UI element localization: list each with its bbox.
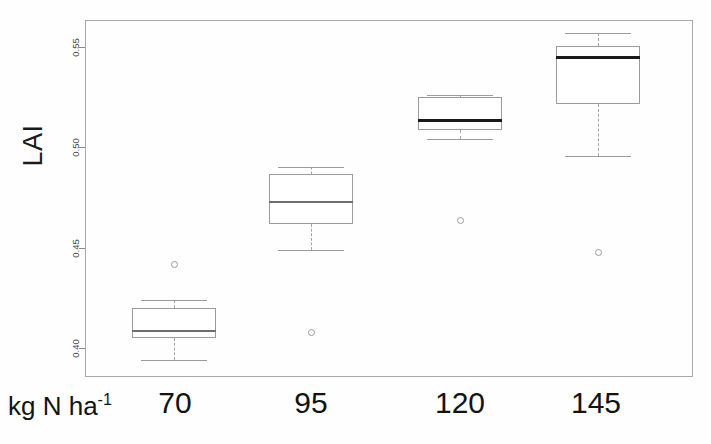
whisker-cap-lower (141, 360, 207, 361)
whisker-cap-lower (565, 156, 631, 157)
whisker-lower (174, 338, 175, 360)
whisker-upper (598, 33, 599, 46)
y-axis-title: LAI (18, 101, 49, 191)
whisker-upper (174, 300, 175, 308)
median-line (132, 330, 216, 332)
outlier-point (595, 249, 602, 256)
whisker-cap-lower (427, 139, 493, 140)
box-iqr (418, 97, 502, 130)
whisker-cap-lower (278, 250, 344, 251)
x-tick-label-95: 95 (266, 386, 356, 420)
x-tick-label-145: 145 (551, 386, 641, 420)
median-line (418, 119, 502, 122)
median-line (556, 56, 640, 59)
whisker-lower (460, 130, 461, 139)
x-axis-units-label: kg N ha-1 (8, 390, 112, 422)
x-axis-units-exponent: -1 (98, 390, 112, 408)
whisker-upper (311, 167, 312, 174)
x-axis-units-text: kg N ha (8, 391, 98, 421)
outlier-point (457, 217, 464, 224)
whisker-lower (311, 224, 312, 250)
box-iqr (132, 308, 216, 338)
x-tick-label-120: 120 (415, 386, 505, 420)
outlier-point (171, 261, 178, 268)
x-tick-label-70: 70 (130, 386, 220, 420)
box-plot-figure: LAI 0.55 0.50 0.45 0.40 (0, 0, 711, 444)
median-line (269, 201, 353, 203)
box-iqr (269, 174, 353, 224)
whisker-lower (598, 104, 599, 156)
box-iqr (556, 46, 640, 104)
outlier-point (308, 329, 315, 336)
